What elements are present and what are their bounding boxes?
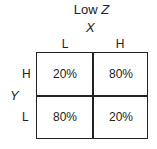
row-header-h: H: [22, 67, 31, 81]
cell-yl-xh: 20%: [93, 110, 149, 124]
table-title: Low Z: [0, 2, 157, 17]
cell-yh-xh: 80%: [93, 67, 149, 81]
title-variable: Z: [101, 2, 109, 17]
grid-horizontal-divider: [36, 95, 148, 97]
y-axis-label: Y: [10, 88, 19, 103]
column-header-l: L: [55, 37, 75, 51]
column-header-h: H: [110, 37, 130, 51]
title-prefix: Low: [74, 2, 101, 17]
cell-yl-xl: 80%: [37, 110, 93, 124]
row-header-l: L: [22, 110, 29, 124]
x-axis-label: X: [86, 20, 95, 35]
cell-yh-xl: 20%: [37, 67, 93, 81]
